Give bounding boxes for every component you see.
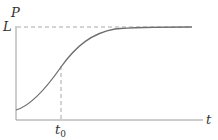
- y-axis-label: P: [10, 5, 20, 20]
- x-axis-label: t: [206, 112, 212, 127]
- inflection-label-sub: 0: [60, 129, 66, 139]
- logistic-curve: [16, 27, 192, 110]
- inflection-label: t0: [55, 122, 66, 139]
- asymptote-label: L: [2, 19, 12, 34]
- logistic-diagram: P L t t0: [0, 0, 218, 140]
